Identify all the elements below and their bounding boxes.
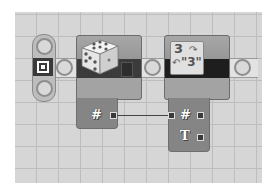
dice-icon [78,36,122,76]
arrow-back-icon: ↶ [172,57,180,68]
number-plug-icon: # [180,107,191,122]
number-plug-icon: # [91,107,102,122]
start-connector-top-icon[interactable] [36,38,53,55]
beam-connector-3-icon[interactable] [234,59,251,76]
number-to-text-text-output-plug[interactable] [197,134,204,141]
random-number-output-plug[interactable] [110,112,117,119]
number-data-wire[interactable] [117,115,168,116]
beam-connector-2-icon[interactable] [144,59,161,76]
beam-connector-1-icon[interactable] [56,59,73,76]
sequence-start-icon [33,58,53,76]
number-to-text-number-output-plug[interactable] [197,112,204,119]
arrow-clockwise-icon: ↷ [189,44,197,55]
start-connector-bottom-icon[interactable] [36,80,53,97]
text-plug-icon: T [180,128,190,143]
number-to-text-icon: 3 "3" ↷ ↶ [170,41,204,75]
number-to-text-number-input-plug[interactable] [168,112,175,119]
